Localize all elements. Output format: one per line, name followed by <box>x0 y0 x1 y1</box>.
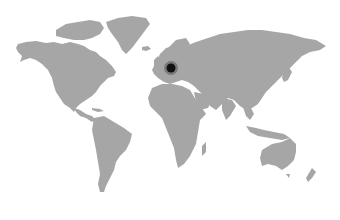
indonesia <box>246 126 290 140</box>
continents <box>16 16 326 192</box>
marker-dot[interactable] <box>167 64 176 73</box>
madagascar <box>202 142 206 156</box>
arctic-islands <box>56 20 104 40</box>
new-zealand <box>306 168 316 182</box>
location-marker[interactable] <box>164 61 178 75</box>
caribbean <box>92 108 104 112</box>
tasmania <box>286 174 290 178</box>
india <box>222 98 236 120</box>
iceland <box>142 46 151 51</box>
north-america <box>16 41 116 112</box>
world-map <box>0 0 340 220</box>
australia <box>260 138 296 170</box>
south-america <box>92 116 132 192</box>
